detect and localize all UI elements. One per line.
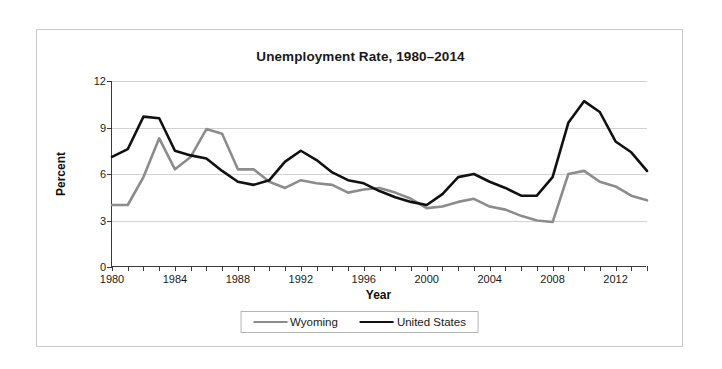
plot-area: 036912 198019841988199219962000200420082… [111, 81, 646, 267]
x-tick-label: 2008 [540, 273, 564, 285]
legend-swatch [253, 321, 287, 323]
x-tick-label: 1984 [163, 273, 187, 285]
legend-label: Wyoming [290, 316, 338, 328]
legend-item[interactable]: Wyoming [253, 316, 338, 328]
y-tick-label: 3 [100, 215, 106, 227]
x-tick-label: 1996 [352, 273, 376, 285]
x-axis-label: Year [111, 288, 646, 302]
figure-frame: Unemployment Rate, 1980–2014 Percent 036… [36, 29, 683, 347]
y-tick-label: 0 [100, 261, 106, 273]
x-tick-label: 1988 [226, 273, 250, 285]
legend-label: United States [397, 316, 466, 328]
x-tick-label: 1980 [100, 273, 124, 285]
legend-item[interactable]: United States [360, 316, 466, 328]
y-tick-label: 9 [100, 122, 106, 134]
x-tick-mark [647, 266, 648, 271]
chart-title: Unemployment Rate, 1980–2014 [37, 49, 684, 64]
y-axis-label: Percent [54, 152, 68, 196]
chart-legend: WyomingUnited States [240, 311, 479, 333]
x-tick-label: 2004 [477, 273, 501, 285]
x-tick-label: 2000 [414, 273, 438, 285]
series-lines [112, 81, 647, 267]
x-tick-label: 1992 [289, 273, 313, 285]
series-line [112, 129, 647, 222]
y-tick-label: 6 [100, 168, 106, 180]
x-tick-label: 2012 [603, 273, 627, 285]
y-tick-label: 12 [94, 75, 106, 87]
legend-swatch [360, 321, 394, 323]
